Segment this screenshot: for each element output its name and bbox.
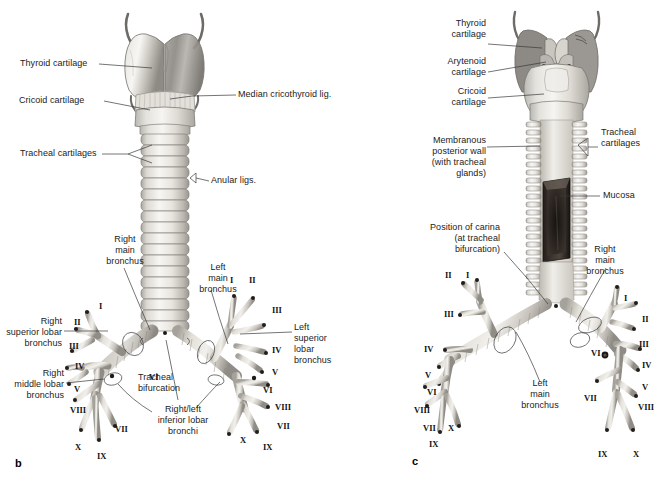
numeral-c-right-VI: VI: [591, 349, 600, 358]
numeral-b-right-II: II: [74, 318, 81, 327]
numeral-c-right-VII: VII: [584, 394, 597, 403]
label-anular-ligs: Anular ligs.: [211, 175, 256, 186]
label-membranous-wall-l4: glands): [392, 168, 486, 179]
label-tracheal-cartilages-c-l2: cartilages: [601, 138, 640, 149]
panel-id-c: c: [412, 455, 418, 467]
label-inferior-lobar-l2: inferior lobar: [140, 415, 226, 426]
numeral-b-left-VIII: VIII: [275, 403, 291, 412]
numeral-b-left-III: III: [272, 306, 282, 315]
label-right-middle-lobar-l2: middle lobar: [0, 379, 64, 390]
label-left-main-bronchus-b-l3: bronchus: [182, 284, 254, 295]
label-inferior-lobar-l3: bronchi: [140, 426, 226, 437]
label-left-superior-lobar-l1: Left: [294, 322, 309, 333]
panel-b-artwork: [64, 14, 292, 442]
numeral-b-left-V: V: [272, 368, 278, 377]
numeral-b-left-II: II: [249, 276, 256, 285]
numeral-b-right-VI: VI: [149, 373, 158, 382]
numeral-c-left-VI: VI: [427, 388, 436, 397]
numeral-c-left-IX: IX: [429, 440, 438, 449]
label-right-superior-lobar-l1: Right: [0, 316, 62, 327]
panel-id-b: b: [15, 457, 22, 469]
label-right-middle-lobar-l1: Right: [0, 368, 64, 379]
numeral-b-left-IV: IV: [272, 346, 281, 355]
label-left-main-bronchus-c-l3: bronchus: [505, 400, 575, 411]
numeral-b-right-IX: IX: [97, 452, 106, 461]
label-left-superior-lobar-l2: superior: [294, 333, 327, 344]
numeral-b-left-VII: VII: [277, 422, 290, 431]
numeral-b-left-VI: VI: [263, 386, 272, 395]
label-right-middle-lobar-l3: bronchus: [0, 390, 64, 401]
label-inferior-lobar-l1: Right/left: [140, 404, 226, 415]
label-right-main-bronchus-b-l3: bronchus: [86, 256, 164, 267]
label-left-main-bronchus-c-l2: main: [505, 389, 575, 400]
label-thyroid-cartilage-b: Thyroid cartilage: [20, 58, 87, 69]
numeral-b-right-I: I: [99, 302, 102, 311]
label-tracheal-cartilages-b: Tracheal cartilages: [20, 148, 97, 159]
label-right-main-bronchus-c-l2: main: [570, 255, 640, 266]
numeral-b-left-X: X: [240, 436, 246, 445]
anatomy-figure: Thyroid cartilage Cricoid cartilage Trac…: [0, 0, 655, 478]
numeral-c-left-I: I: [466, 271, 469, 280]
numeral-c-right-X: X: [633, 450, 639, 459]
label-arytenoid-cartilage-l2: cartilage: [404, 67, 486, 78]
label-tracheal-bifurcation-l2: bifurcation: [138, 383, 180, 394]
numeral-c-left-V: V: [425, 371, 431, 380]
numeral-c-right-V: V: [642, 383, 648, 392]
label-arytenoid-cartilage-l1: Arytenoid: [404, 56, 486, 67]
numeral-b-right-III: III: [69, 342, 79, 351]
numeral-c-left-IV: IV: [424, 345, 433, 354]
label-left-superior-lobar-l3: lobar: [294, 344, 314, 355]
label-thyroid-cartilage-c-l1: Thyroid: [410, 18, 486, 29]
label-left-main-bronchus-c-l1: Left: [505, 378, 575, 389]
label-right-main-bronchus-b-l1: Right: [86, 234, 164, 245]
label-cricoid-cartilage-c-l2: cartilage: [410, 97, 486, 108]
numeral-c-left-X: X: [448, 424, 454, 433]
numeral-c-right-III: III: [639, 340, 649, 349]
numeral-b-right-V: V: [74, 385, 80, 394]
numeral-b-right-VIII: VIII: [70, 406, 86, 415]
label-carina-l3: bifurcation): [386, 244, 500, 255]
label-mucosa: Mucosa: [603, 190, 635, 201]
numeral-b-right-VII: VII: [115, 425, 128, 434]
numeral-c-right-IV: IV: [642, 361, 651, 370]
numeral-c-left-VIII: VIII: [414, 406, 430, 415]
label-membranous-wall-l3: (with tracheal: [392, 157, 486, 168]
label-left-superior-lobar-l4: bronchus: [294, 355, 331, 366]
numeral-b-left-IX: IX: [263, 443, 272, 452]
numeral-b-right-IV: IV: [75, 362, 84, 371]
numeral-c-right-VIII: VIII: [638, 403, 654, 412]
numeral-c-right-II: II: [642, 315, 649, 324]
numeral-b-left-I: I: [230, 276, 233, 285]
label-membranous-wall-l1: Membranous: [392, 135, 486, 146]
label-membranous-wall-l2: posterior wall: [392, 146, 486, 157]
label-carina-l2: (at tracheal: [386, 233, 500, 244]
label-right-superior-lobar-l3: bronchus: [0, 338, 62, 349]
label-cricoid-cartilage-c-l1: Cricoid: [410, 86, 486, 97]
numeral-c-left-VII: VII: [423, 424, 436, 433]
numeral-c-left-III: III: [444, 310, 454, 319]
label-right-main-bronchus-c-l1: Right: [570, 244, 640, 255]
label-left-main-bronchus-b-l1: Left: [182, 262, 254, 273]
label-cricoid-cartilage-b: Cricoid cartilage: [19, 95, 84, 106]
label-right-superior-lobar-l2: superior lobar: [0, 327, 62, 338]
label-carina-l1: Position of carina: [386, 222, 500, 233]
numeral-b-right-X: X: [75, 443, 81, 452]
label-right-main-bronchus-b-l2: main: [86, 245, 164, 256]
label-thyroid-cartilage-c-l2: cartilage: [410, 29, 486, 40]
label-left-main-bronchus-b-l2: main: [182, 273, 254, 284]
label-right-main-bronchus-c-l3: bronchus: [570, 266, 640, 277]
numeral-c-right-IX: IX: [598, 450, 607, 459]
numeral-c-left-II: II: [445, 271, 452, 280]
numeral-c-right-I: I: [624, 294, 627, 303]
label-tracheal-cartilages-c-l1: Tracheal: [601, 127, 636, 138]
label-median-cricothyroid-lig: Median cricothyroid lig.: [238, 89, 331, 100]
